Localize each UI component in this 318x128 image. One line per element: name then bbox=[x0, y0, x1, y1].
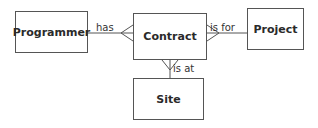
entity-label: Contract bbox=[143, 30, 196, 43]
entity-label: Project bbox=[253, 23, 297, 36]
entity-contract[interactable]: Contract bbox=[133, 13, 207, 60]
relationship-label-is-at: is at bbox=[173, 63, 194, 74]
entity-programmer[interactable]: Programmer bbox=[15, 11, 88, 53]
entity-site[interactable]: Site bbox=[133, 78, 204, 120]
relationship-label-is-for: is for bbox=[210, 22, 235, 33]
entity-project[interactable]: Project bbox=[247, 8, 304, 50]
relationship-label-has: has bbox=[96, 22, 114, 33]
entity-label: Site bbox=[156, 93, 180, 106]
entity-label: Programmer bbox=[13, 26, 91, 39]
